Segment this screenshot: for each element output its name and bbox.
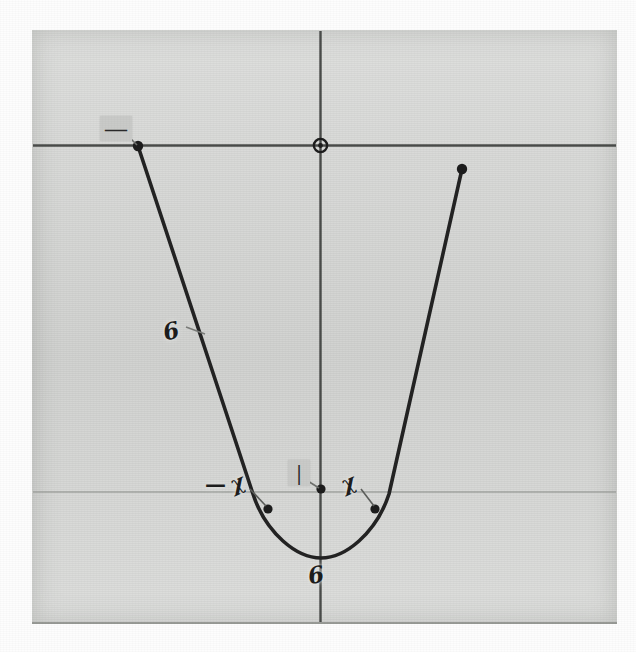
graph-figure <box>0 0 636 652</box>
marker-vertex-reference <box>316 484 325 493</box>
curve-path <box>138 146 462 558</box>
origin-marker-dot <box>318 143 323 148</box>
label-chip-top-left: — <box>100 116 132 141</box>
annotation-left-root-minus: — <box>205 471 226 496</box>
leader-left-arm-glyph <box>186 327 205 334</box>
marker-right-root <box>370 504 379 513</box>
scan-page: — | 6 6 — χ χ <box>0 0 636 652</box>
marker-right-endpoint <box>457 164 467 174</box>
label-chip-mid: | <box>288 460 310 486</box>
